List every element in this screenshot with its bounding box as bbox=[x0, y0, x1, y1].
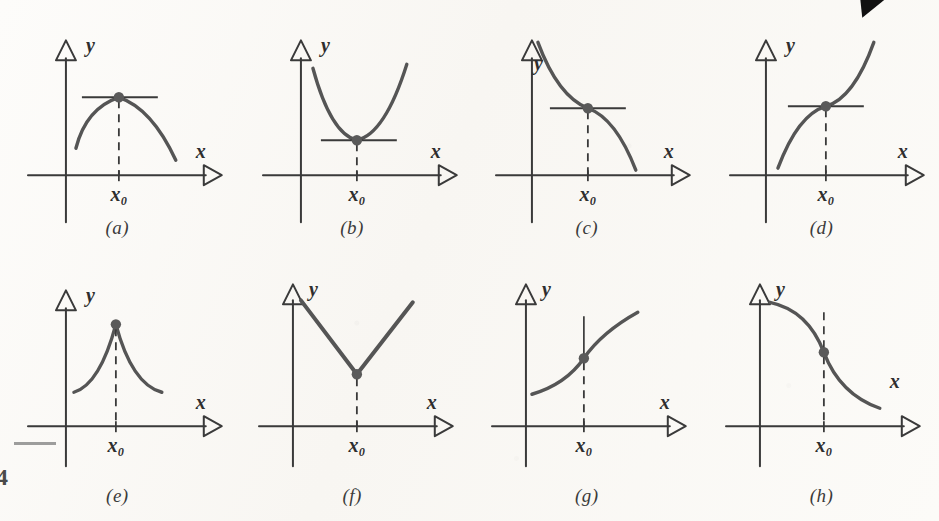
panel-e-graph: y x x₀ bbox=[0, 261, 235, 521]
x0-label: x₀ bbox=[817, 183, 835, 205]
panel-g: y x x₀ (g) bbox=[470, 261, 705, 521]
critical-point-marker bbox=[582, 103, 592, 113]
x-axis-label: x bbox=[195, 140, 206, 162]
x0-label: x₀ bbox=[347, 183, 365, 205]
panel-caption-h: (h) bbox=[704, 485, 939, 507]
y-axis-arrowhead-icon bbox=[756, 40, 776, 60]
panel-caption-b: (b) bbox=[235, 217, 470, 239]
critical-point-marker bbox=[111, 319, 121, 329]
panel-f: y x x₀ (f) bbox=[235, 261, 470, 521]
y-axis-label: y bbox=[319, 34, 330, 57]
panel-h-graph: y x x₀ bbox=[704, 261, 939, 521]
curve bbox=[313, 64, 407, 140]
y-axis-label: y bbox=[307, 278, 318, 301]
curve-left bbox=[74, 324, 116, 392]
y-axis-label: y bbox=[531, 52, 542, 75]
x0-label: x₀ bbox=[347, 434, 365, 456]
curve-left bbox=[301, 300, 357, 374]
critical-point-marker bbox=[578, 353, 588, 363]
critical-point-marker bbox=[351, 135, 361, 145]
x-axis-label: x bbox=[195, 391, 206, 413]
x0-label: x₀ bbox=[109, 183, 127, 205]
x0-label: x₀ bbox=[815, 434, 833, 456]
x-axis-label: x bbox=[426, 391, 437, 413]
x0-label: x₀ bbox=[578, 183, 596, 205]
panel-c: y x x₀ (c) bbox=[470, 0, 705, 261]
x-axis-label: x bbox=[430, 140, 441, 162]
y-axis-arrowhead-icon bbox=[291, 40, 311, 60]
panel-caption-d: (d) bbox=[704, 217, 939, 239]
critical-point-marker bbox=[821, 101, 831, 111]
y-axis-label: y bbox=[84, 34, 95, 57]
critical-point-marker bbox=[819, 347, 829, 357]
y-axis-label: y bbox=[84, 284, 95, 307]
panel-caption-g: (g) bbox=[470, 485, 705, 507]
panel-g-graph: y x x₀ bbox=[470, 261, 705, 521]
panel-h: y x x₀ (h) bbox=[704, 261, 939, 521]
x-axis-label: x bbox=[889, 370, 900, 392]
x-axis-label: x bbox=[662, 140, 673, 162]
y-axis-label: y bbox=[784, 34, 795, 57]
x-axis-label: x bbox=[658, 391, 669, 413]
panel-caption-c: (c) bbox=[470, 217, 705, 239]
panel-a: y x x₀ (a) bbox=[0, 0, 235, 261]
panel-caption-e: (e) bbox=[0, 485, 235, 507]
x-axis-label: x bbox=[897, 140, 908, 162]
curve-right bbox=[357, 302, 413, 374]
critical-point-marker bbox=[114, 92, 124, 102]
curve-right bbox=[116, 324, 162, 392]
figure-grid: y x x₀ (a) y x x₀ (b) bbox=[0, 0, 939, 521]
panel-caption-f: (f) bbox=[235, 485, 470, 507]
panel-e: y x x₀ (e) bbox=[0, 261, 235, 521]
panel-b: y x x₀ (b) bbox=[235, 0, 470, 261]
critical-point-marker bbox=[351, 369, 361, 379]
panel-d: y x x₀ (d) bbox=[704, 0, 939, 261]
x0-label: x₀ bbox=[574, 434, 592, 456]
y-axis-label: y bbox=[774, 278, 785, 301]
panel-f-graph: y x x₀ bbox=[235, 261, 470, 521]
y-axis-label: y bbox=[539, 278, 550, 301]
panel-caption-a: (a) bbox=[0, 217, 235, 239]
curve bbox=[76, 97, 176, 160]
x0-label: x₀ bbox=[106, 434, 124, 456]
